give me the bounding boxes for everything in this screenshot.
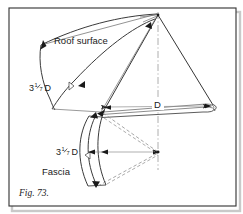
technical-drawing-svg: Roof surface 3 1 7 D 3 1 7 D Fascia D Fi… (0, 0, 243, 214)
fascia-arc-fraction-denominator: 7 (66, 150, 69, 156)
fascia-arc-whole-number: 3 (56, 147, 61, 157)
figure-container: Roof surface 3 1 7 D 3 1 7 D Fascia D Fi… (0, 0, 243, 214)
figure-caption: Fig. 73. (18, 188, 49, 198)
roof-arc-unit: D (45, 83, 52, 93)
apex-point (157, 14, 160, 17)
fascia-arc-unit: D (72, 147, 79, 157)
diameter-label: D (154, 99, 161, 110)
roof-arc-fraction-numerator: 1 (35, 82, 38, 88)
fascia-arc-fraction-numerator: 1 (62, 146, 65, 152)
roof-arc-fraction-denominator: 7 (39, 86, 42, 92)
fascia-label: Fascia (42, 166, 71, 177)
roof-surface-label: Roof surface (54, 35, 108, 46)
roof-arc-whole-number: 3 (29, 83, 34, 93)
lower-center-point (157, 151, 160, 154)
